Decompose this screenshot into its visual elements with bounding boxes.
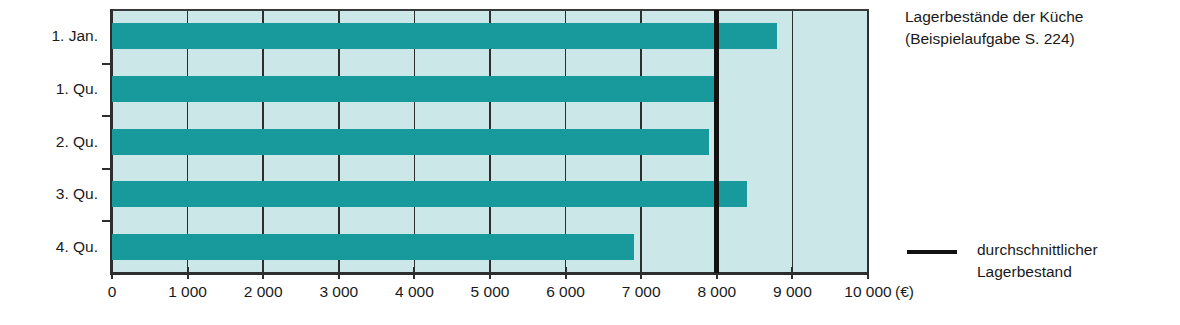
legend-label-line-2: Lagerbestand xyxy=(977,261,1098,283)
legend-label-line-1: durchschnittlicher xyxy=(977,239,1098,261)
gridline-9000 xyxy=(792,10,794,273)
y-axis-tick xyxy=(102,63,112,65)
bar-chart: 1. Jan.1. Qu.2. Qu.3. Qu.4. Qu.01 0002 0… xyxy=(0,0,1180,325)
chart-title-line-2: (Beispielaufgabe S. 224) xyxy=(905,28,1083,50)
plot-area xyxy=(112,10,868,273)
bar xyxy=(112,129,709,155)
average-reference-line xyxy=(714,10,719,273)
y-axis-category-label: 1. Jan. xyxy=(8,27,98,45)
x-axis-tick-label: 6 000 xyxy=(546,283,585,301)
y-axis-category-label: 1. Qu. xyxy=(8,80,98,98)
x-axis-tick xyxy=(338,267,340,279)
bar xyxy=(112,23,777,49)
x-axis-tick xyxy=(867,267,869,279)
x-axis-tick xyxy=(111,267,113,279)
x-axis-unit-label: (€) xyxy=(895,283,914,301)
x-axis-tick-label: 2 000 xyxy=(244,283,283,301)
x-axis-tick xyxy=(262,267,264,279)
x-axis-tick-label: 9 000 xyxy=(773,283,812,301)
chart-title: Lagerbestände der Küche (Beispielaufgabe… xyxy=(905,6,1083,50)
x-axis-tick xyxy=(791,267,793,279)
legend-label: durchschnittlicher Lagerbestand xyxy=(977,239,1098,283)
y-axis-tick xyxy=(102,115,112,117)
legend-average-line-swatch xyxy=(907,250,957,254)
x-axis-tick-label: 8 000 xyxy=(697,283,736,301)
x-axis-tick xyxy=(565,267,567,279)
bar xyxy=(112,234,634,260)
bar xyxy=(112,76,717,102)
plot-top-border xyxy=(112,9,869,11)
bar xyxy=(112,181,747,207)
x-axis-tick-label: 3 000 xyxy=(319,283,358,301)
x-axis-tick-label: 1 000 xyxy=(168,283,207,301)
y-axis-category-label: 2. Qu. xyxy=(8,133,98,151)
x-axis-tick-label: 7 000 xyxy=(622,283,661,301)
gridline-10000 xyxy=(867,10,869,273)
x-axis-tick xyxy=(187,267,189,279)
x-axis-tick-label: 0 xyxy=(108,283,117,301)
y-axis-tick xyxy=(102,168,112,170)
x-axis-tick-label: 10 000 xyxy=(844,283,891,301)
y-axis-category-label: 3. Qu. xyxy=(8,185,98,203)
x-axis-tick-label: 5 000 xyxy=(471,283,510,301)
x-axis-tick xyxy=(489,267,491,279)
x-axis-tick xyxy=(413,267,415,279)
y-axis-tick xyxy=(102,220,112,222)
chart-title-line-1: Lagerbestände der Küche xyxy=(905,6,1083,28)
x-axis-tick xyxy=(640,267,642,279)
x-axis-tick-label: 4 000 xyxy=(395,283,434,301)
y-axis-category-label: 4. Qu. xyxy=(8,238,98,256)
